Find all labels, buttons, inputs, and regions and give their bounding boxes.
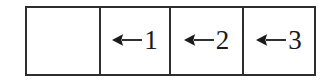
cell-content-1: 1 <box>112 27 158 54</box>
cell-label-3: 3 <box>288 27 302 54</box>
arrow-left-icon <box>184 32 214 48</box>
strip-cell-empty <box>27 8 99 74</box>
strip-cell-1: 1 <box>99 8 169 74</box>
strip-cell-2: 2 <box>169 8 242 74</box>
arrow-left-icon <box>256 32 286 48</box>
cell-label-2: 2 <box>216 27 230 54</box>
strip-cell-3: 3 <box>242 8 314 74</box>
partitioned-strip: 1 2 3 <box>25 6 316 76</box>
cell-content-3: 3 <box>256 27 302 54</box>
cell-content-2: 2 <box>184 27 230 54</box>
arrow-left-icon <box>112 32 142 48</box>
diagram-canvas: 1 2 3 <box>0 0 327 84</box>
cell-label-1: 1 <box>144 27 158 54</box>
